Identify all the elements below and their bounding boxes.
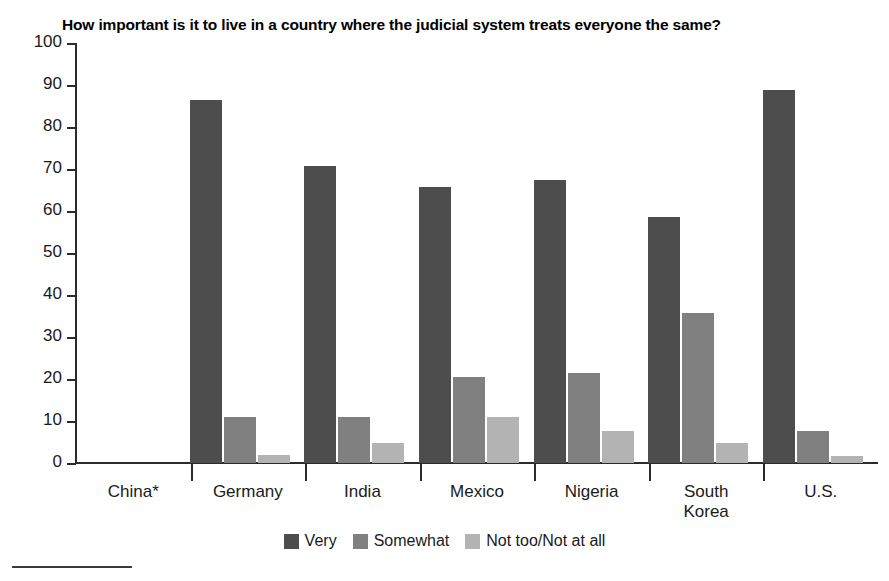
bar-chart: How important is it to live in a country… [0, 0, 889, 581]
y-axis-tick: 40 [0, 295, 76, 296]
x-axis-category-label: SouthKorea [649, 482, 764, 522]
y-axis-tick-mark [67, 253, 76, 255]
y-axis-tick: 0 [0, 463, 76, 464]
bar [304, 166, 336, 463]
legend-item[interactable]: Somewhat [353, 532, 450, 550]
y-axis-tick-label: 20 [43, 368, 62, 388]
y-axis-tick-label: 30 [43, 326, 62, 346]
x-axis-group-separator [534, 463, 536, 481]
bar [224, 417, 256, 463]
y-axis-tick-label: 60 [43, 200, 62, 220]
legend-label: Not too/Not at all [486, 532, 605, 550]
bar [258, 455, 290, 463]
y-axis-tick-mark [67, 463, 76, 465]
y-axis-tick: 90 [0, 85, 76, 86]
bar [568, 373, 600, 463]
y-axis-tick: 20 [0, 379, 76, 380]
x-axis-group-separator [191, 463, 193, 481]
bar [648, 217, 680, 463]
y-axis-tick: 10 [0, 421, 76, 422]
y-axis-tick-mark [67, 127, 76, 129]
bar [602, 431, 634, 463]
y-axis-tick-mark [67, 337, 76, 339]
bar-group [534, 43, 649, 463]
y-axis-tick-label: 100 [34, 32, 62, 52]
bar [419, 187, 451, 463]
footnote-rule [12, 566, 132, 568]
bar-group [305, 43, 420, 463]
y-axis-tick-label: 70 [43, 158, 62, 178]
bar [831, 456, 863, 463]
y-axis-tick: 100 [0, 43, 76, 44]
bar [487, 417, 519, 463]
x-axis-group-separator [763, 463, 765, 481]
y-axis-tick-label: 40 [43, 284, 62, 304]
y-axis-tick-label: 10 [43, 410, 62, 430]
x-axis-group-separator [420, 463, 422, 481]
x-axis-category-label: Nigeria [534, 482, 649, 502]
bar-group [191, 43, 306, 463]
y-axis-tick-mark [67, 379, 76, 381]
y-axis-tick: 30 [0, 337, 76, 338]
legend-item[interactable]: Not too/Not at all [465, 532, 605, 550]
bar-group [76, 43, 191, 463]
y-axis-tick-label: 80 [43, 116, 62, 136]
bar [453, 377, 485, 463]
bar [534, 180, 566, 464]
bar [716, 443, 748, 463]
legend-swatch-icon [465, 534, 480, 549]
legend-label: Very [305, 532, 337, 550]
legend-swatch-icon [284, 534, 299, 549]
legend-swatch-icon [353, 534, 368, 549]
y-axis-tick-label: 90 [43, 74, 62, 94]
y-axis-tick: 50 [0, 253, 76, 254]
bar-group [420, 43, 535, 463]
bar-group [649, 43, 764, 463]
y-axis-tick-mark [67, 43, 76, 45]
legend-item[interactable]: Very [284, 532, 337, 550]
y-axis-tick-mark [67, 421, 76, 423]
x-axis-group-separator [305, 463, 307, 481]
plot-area [76, 43, 878, 463]
x-axis-group-separator [649, 463, 651, 481]
y-axis-tick-mark [67, 85, 76, 87]
bar [338, 417, 370, 463]
y-axis-tick-label: 0 [53, 452, 62, 472]
bar [682, 313, 714, 463]
bar [372, 443, 404, 463]
chart-legend: VerySomewhatNot too/Not at all [0, 532, 889, 550]
y-axis-tick: 80 [0, 127, 76, 128]
bar [763, 90, 795, 463]
chart-title: How important is it to live in a country… [62, 16, 721, 34]
y-axis-tick-mark [67, 169, 76, 171]
x-axis-category-label: U.S. [763, 482, 878, 502]
x-axis-category-label: India [305, 482, 420, 502]
y-axis-tick: 60 [0, 211, 76, 212]
x-axis-category-label: China* [76, 482, 191, 502]
bar [190, 100, 222, 463]
y-axis-tick: 70 [0, 169, 76, 170]
bar [797, 431, 829, 463]
x-axis-category-label: Germany [191, 482, 306, 502]
y-axis-tick-mark [67, 295, 76, 297]
legend-label: Somewhat [374, 532, 450, 550]
y-axis-tick-label: 50 [43, 242, 62, 262]
x-axis-category-label: Mexico [420, 482, 535, 502]
y-axis-tick-mark [67, 211, 76, 213]
bar-group [763, 43, 878, 463]
